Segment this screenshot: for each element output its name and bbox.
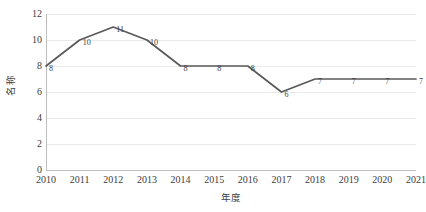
x-tick-label: 2013 bbox=[137, 174, 157, 186]
y-tick-label: 12 bbox=[20, 9, 42, 19]
y-tick-label: 2 bbox=[20, 139, 42, 149]
x-tick-label: 2010 bbox=[36, 174, 56, 186]
y-tick-label: 8 bbox=[20, 61, 42, 71]
x-tick-label: 2016 bbox=[238, 174, 258, 186]
data-label: 7 bbox=[318, 78, 322, 86]
x-tick-label: 2020 bbox=[372, 174, 392, 186]
data-label: 6 bbox=[284, 91, 288, 99]
data-label: 7 bbox=[419, 78, 423, 86]
y-tick-label: 4 bbox=[20, 113, 42, 123]
x-tick-label: 2015 bbox=[204, 174, 224, 186]
data-label: 7 bbox=[385, 78, 389, 86]
data-label: 8 bbox=[49, 65, 53, 73]
data-label: 11 bbox=[116, 26, 124, 34]
data-label: 8 bbox=[184, 65, 188, 73]
x-tick-label: 2014 bbox=[171, 174, 191, 186]
plot-area: 810111088867777 bbox=[46, 14, 416, 170]
line-chart: 名称 024681012 810111088867777 20102011201… bbox=[0, 0, 426, 212]
series-line bbox=[46, 14, 416, 170]
data-label: 8 bbox=[251, 65, 255, 73]
data-label: 8 bbox=[217, 65, 221, 73]
x-tick-label: 2021 bbox=[406, 174, 426, 186]
y-tick-label: 10 bbox=[20, 35, 42, 45]
x-tick-label: 2018 bbox=[305, 174, 325, 186]
y-axis-title-label: 名称 bbox=[2, 75, 16, 96]
x-tick-label: 2011 bbox=[70, 174, 90, 186]
data-label: 7 bbox=[352, 78, 356, 86]
y-axis-tick-labels: 024681012 bbox=[16, 0, 42, 180]
x-axis-title: 年度 bbox=[46, 190, 416, 204]
x-tick-label: 2012 bbox=[103, 174, 123, 186]
x-tick-label: 2017 bbox=[271, 174, 291, 186]
x-tick-label: 2019 bbox=[339, 174, 359, 186]
data-label: 10 bbox=[83, 39, 91, 47]
gridline bbox=[46, 170, 416, 171]
y-tick-label: 6 bbox=[20, 87, 42, 97]
data-label: 10 bbox=[150, 39, 158, 47]
x-axis-tick-labels: 2010201120122013201420152016201720182019… bbox=[46, 174, 416, 188]
